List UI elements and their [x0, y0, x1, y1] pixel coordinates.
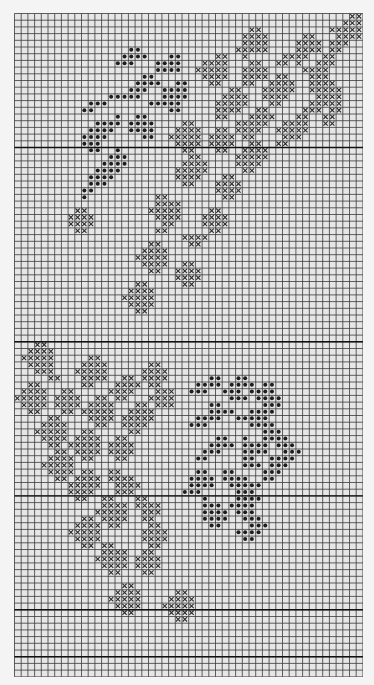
- bead-dot-icon: [243, 530, 247, 534]
- bead-dot-icon: [116, 61, 120, 65]
- bead-dot-icon: [223, 436, 227, 440]
- bead-dot-icon: [250, 497, 254, 501]
- bead-dot-icon: [96, 142, 100, 146]
- bead-dot-icon: [277, 443, 281, 447]
- bead-dot-icon: [216, 524, 220, 528]
- bead-dot-icon: [136, 95, 140, 99]
- bead-dot-icon: [277, 403, 281, 407]
- bead-dot-icon: [210, 403, 214, 407]
- bead-dot-icon: [236, 376, 240, 380]
- bead-dot-icon: [270, 470, 274, 474]
- bead-dot-icon: [149, 122, 153, 126]
- bead-dot-icon: [270, 383, 274, 387]
- bead-dot-icon: [196, 383, 200, 387]
- bead-dot-icon: [176, 61, 180, 65]
- bead-dot-icon: [236, 530, 240, 534]
- bead-dot-icon: [169, 68, 173, 72]
- bead-dot-icon: [129, 88, 133, 92]
- bead-dot-icon: [203, 510, 207, 514]
- bead-dot-icon: [149, 128, 153, 132]
- bead-dot-icon: [196, 490, 200, 494]
- bead-dot-icon: [250, 530, 254, 534]
- bead-dot-icon: [89, 101, 93, 105]
- bead-dot-icon: [230, 477, 234, 481]
- bead-dot-icon: [250, 517, 254, 521]
- bead-dot-icon: [203, 483, 207, 487]
- bead-dot-icon: [203, 517, 207, 521]
- bead-dot-icon: [96, 101, 100, 105]
- bead-dot-icon: [243, 537, 247, 541]
- bead-dot-icon: [236, 416, 240, 420]
- bead-dot-icon: [263, 390, 267, 394]
- bead-dot-icon: [270, 477, 274, 481]
- bead-dot-icon: [250, 510, 254, 514]
- bead-dot-icon: [216, 376, 220, 380]
- bead-dot-icon: [123, 55, 127, 59]
- bead-dot-icon: [257, 410, 261, 414]
- bead-dot-icon: [123, 162, 127, 166]
- bead-dot-icon: [203, 470, 207, 474]
- bead-dot-icon: [257, 483, 261, 487]
- bead-dot-icon: [196, 423, 200, 427]
- bead-dot-icon: [243, 416, 247, 420]
- bead-dot-icon: [109, 168, 113, 172]
- bead-dot-icon: [163, 68, 167, 72]
- bead-dot-icon: [129, 122, 133, 126]
- bead-dot-icon: [109, 162, 113, 166]
- bead-dot-icon: [156, 101, 160, 105]
- bead-dot-icon: [169, 55, 173, 59]
- bead-dot-icon: [210, 483, 214, 487]
- bead-dot-icon: [236, 483, 240, 487]
- bead-dot-icon: [143, 55, 147, 59]
- bead-dot-icon: [190, 483, 194, 487]
- bead-dot-icon: [116, 168, 120, 172]
- bead-dot-icon: [250, 410, 254, 414]
- bead-dot-icon: [116, 162, 120, 166]
- bead-dot-icon: [163, 95, 167, 99]
- bead-dot-icon: [216, 436, 220, 440]
- bead-dot-icon: [250, 450, 254, 454]
- bead-dot-icon: [176, 108, 180, 112]
- bead-dot-icon: [169, 95, 173, 99]
- bead-dot-icon: [169, 108, 173, 112]
- bead-dot-icon: [257, 463, 261, 467]
- bead-dot-icon: [102, 122, 106, 126]
- bead-dot-icon: [109, 175, 113, 179]
- bead-dot-icon: [96, 182, 100, 186]
- bead-dot-icon: [190, 477, 194, 481]
- bead-dot-icon: [123, 95, 127, 99]
- bead-dot-icon: [143, 81, 147, 85]
- bead-dot-icon: [89, 108, 93, 112]
- bead-dot-icon: [283, 450, 287, 454]
- bead-dot-icon: [210, 517, 214, 521]
- bead-dot-icon: [250, 390, 254, 394]
- bead-dot-icon: [250, 457, 254, 461]
- bead-dot-icon: [96, 128, 100, 132]
- bead-dot-icon: [149, 75, 153, 79]
- bead-dot-icon: [190, 490, 194, 494]
- bead-dot-icon: [277, 457, 281, 461]
- bead-dot-icon: [250, 416, 254, 420]
- bead-dot-icon: [109, 128, 113, 132]
- bead-dot-icon: [143, 135, 147, 139]
- bead-dot-icon: [203, 450, 207, 454]
- bead-dot-icon: [243, 497, 247, 501]
- bead-dot-icon: [203, 503, 207, 507]
- bead-dot-icon: [136, 122, 140, 126]
- bead-dot-icon: [210, 450, 214, 454]
- bead-dot-icon: [230, 396, 234, 400]
- bead-dot-icon: [230, 383, 234, 387]
- bead-dot-icon: [89, 135, 93, 139]
- bead-dot-icon: [290, 450, 294, 454]
- bead-dot-icon: [176, 101, 180, 105]
- bead-dot-icon: [230, 410, 234, 414]
- bead-dot-icon: [116, 148, 120, 152]
- bead-dot-icon: [277, 430, 281, 434]
- bead-dot-icon: [270, 390, 274, 394]
- bead-dot-icon: [270, 457, 274, 461]
- bead-dot-icon: [243, 463, 247, 467]
- bead-dot-icon: [102, 168, 106, 172]
- bead-dot-icon: [283, 436, 287, 440]
- bead-dot-icon: [270, 396, 274, 400]
- bead-dot-icon: [156, 61, 160, 65]
